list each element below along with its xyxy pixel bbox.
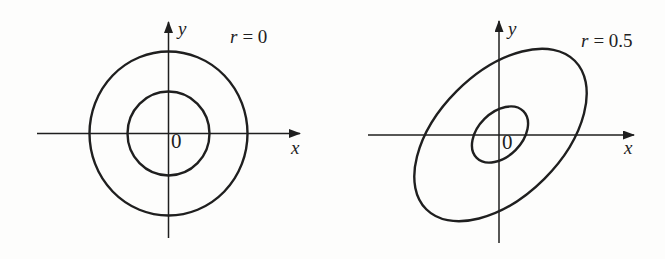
correlation-variable: r	[581, 30, 589, 51]
y-axis-label: y	[176, 18, 187, 39]
panel-r0: r= 0 x y 0	[37, 18, 300, 238]
correlation-label: r= 0.5	[581, 30, 633, 51]
x-axis-label: x	[623, 137, 633, 158]
correlation-value: = 0	[242, 26, 267, 47]
panel-r05: r= 0.5 x y 0	[368, 17, 634, 253]
y-axis-label: y	[506, 18, 517, 39]
contour-diagram-svg: r= 0 x y 0 r= 0.5 x y 0	[0, 0, 665, 259]
correlation-variable: r	[230, 26, 238, 47]
origin-label: 0	[171, 129, 182, 153]
correlation-value: = 0.5	[593, 30, 632, 51]
x-axis-label: x	[290, 137, 300, 158]
correlation-label: r= 0	[230, 26, 267, 47]
figure-canvas: r= 0 x y 0 r= 0.5 x y 0	[0, 0, 665, 259]
origin-label: 0	[502, 130, 513, 154]
